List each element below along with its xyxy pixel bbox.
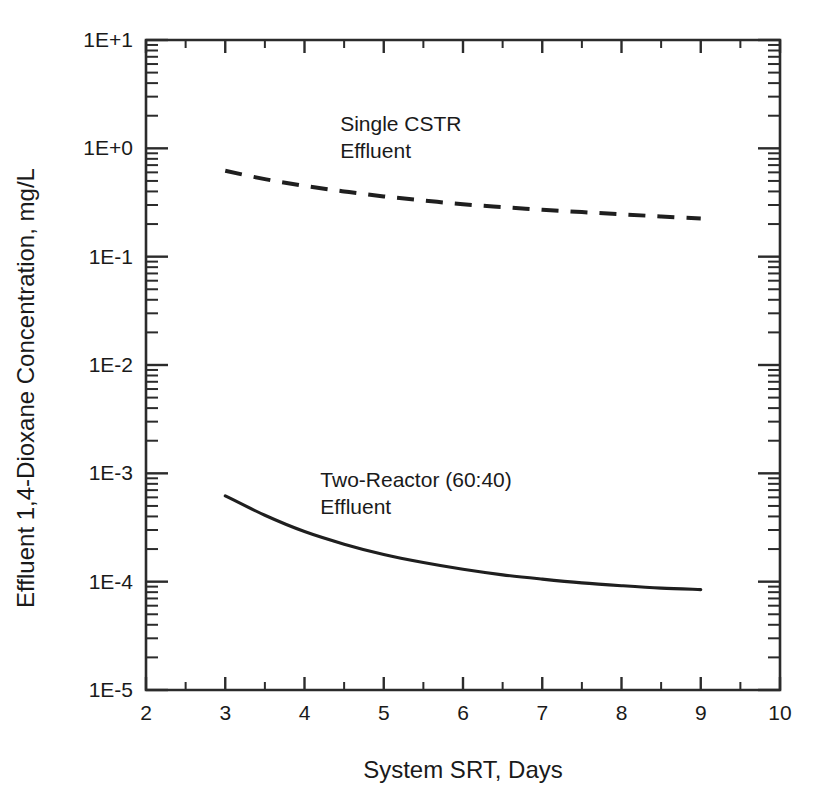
- y-tick-label: 1E-1: [89, 245, 133, 268]
- x-tick-label: 4: [299, 701, 311, 724]
- series-annotation-line2: Effluent: [340, 139, 411, 162]
- x-tick-label: 2: [140, 701, 152, 724]
- series-line-two-reactor: [225, 496, 701, 590]
- y-tick-label: 1E-4: [89, 570, 134, 593]
- y-axis-ticks: [146, 40, 780, 690]
- series-annotation-line1: Single CSTR: [340, 112, 461, 135]
- chart-figure: 2345678910 1E+11E+01E-11E-21E-31E-41E-5 …: [0, 0, 815, 796]
- plot-border: [146, 40, 780, 690]
- y-tick-label: 1E+0: [83, 136, 133, 159]
- series-annotation-layer: Single CSTREffluentTwo-Reactor (60:40)Ef…: [320, 112, 511, 518]
- y-axis-tick-labels: 1E+11E+01E-11E-21E-31E-41E-5: [83, 28, 133, 701]
- y-tick-label: 1E-5: [89, 678, 133, 701]
- x-tick-label: 5: [378, 701, 390, 724]
- x-tick-label: 3: [219, 701, 231, 724]
- x-axis-tick-labels: 2345678910: [140, 701, 792, 724]
- x-axis-title: System SRT, Days: [363, 756, 563, 783]
- y-tick-label: 1E-2: [89, 353, 133, 376]
- y-tick-label: 1E+1: [83, 28, 133, 51]
- x-tick-label: 10: [768, 701, 791, 724]
- x-axis-ticks: [146, 40, 780, 690]
- x-tick-label: 7: [536, 701, 548, 724]
- x-tick-label: 6: [457, 701, 469, 724]
- plot-frame: [146, 40, 780, 690]
- x-tick-label: 9: [695, 701, 707, 724]
- data-series-layer: [225, 171, 701, 590]
- log-line-chart: 2345678910 1E+11E+01E-11E-21E-31E-41E-5 …: [0, 0, 815, 796]
- x-tick-label: 8: [616, 701, 628, 724]
- series-annotation-line2: Effluent: [320, 495, 391, 518]
- y-axis-title: Effluent 1,4-Dioxane Concentration, mg/L: [12, 168, 39, 608]
- series-annotation-line1: Two-Reactor (60:40): [320, 468, 511, 491]
- series-line-single-cstr: [225, 171, 701, 219]
- y-tick-label: 1E-3: [89, 461, 133, 484]
